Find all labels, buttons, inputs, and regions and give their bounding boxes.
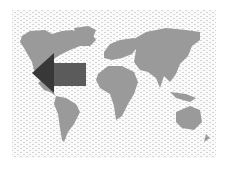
- map-overlay: [0, 0, 226, 169]
- africa: [96, 66, 138, 120]
- australia: [176, 106, 202, 130]
- asia: [132, 28, 200, 88]
- southeast-asia-islands: [170, 92, 196, 102]
- new-zealand: [204, 134, 210, 142]
- arrow-body: [52, 63, 86, 86]
- south-america: [54, 96, 80, 142]
